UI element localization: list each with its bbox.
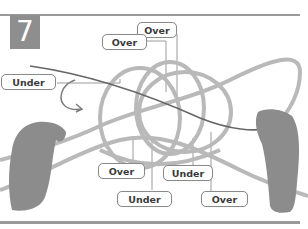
working-line <box>30 66 270 130</box>
label-over-bottom-left: Over <box>98 163 145 179</box>
label-under-bottom-left: Under <box>117 191 172 207</box>
label-under-bottom-middle: Under <box>163 165 213 181</box>
right-hand-icon <box>256 109 299 212</box>
label-under-left: Under <box>1 74 56 90</box>
step-number-badge: 7 <box>10 15 40 49</box>
label-over-bottom-right: Over <box>201 191 248 207</box>
curved-arrow-icon <box>61 80 82 112</box>
label-over-top-left: Over <box>102 34 147 50</box>
